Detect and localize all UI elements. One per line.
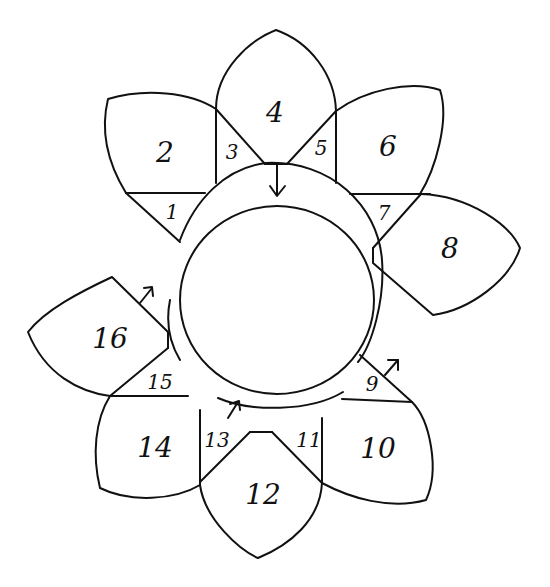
label-4: 4 xyxy=(265,96,284,129)
piece-3-edge xyxy=(216,109,265,164)
label-15: 15 xyxy=(147,370,172,394)
arrow-up-right-icon-13 xyxy=(228,401,240,418)
inner-circle xyxy=(180,206,374,394)
piece-5-edge xyxy=(287,111,336,164)
arrow-up-right-icon-9 xyxy=(385,360,398,375)
label-6: 6 xyxy=(379,130,397,163)
flower-pattern-diagram: 1 2 3 4 5 6 7 8 9 10 11 12 13 14 15 16 xyxy=(0,0,550,587)
label-2: 2 xyxy=(155,136,174,169)
label-16: 16 xyxy=(92,322,128,355)
label-1: 1 xyxy=(166,200,179,224)
piece-labels: 1 2 3 4 5 6 7 8 9 10 11 12 13 14 15 16 xyxy=(92,96,459,511)
label-9: 9 xyxy=(366,372,379,396)
arrow-up-right-icon-16 xyxy=(140,287,153,303)
label-13: 13 xyxy=(204,428,229,452)
label-14: 14 xyxy=(137,431,173,464)
label-11: 11 xyxy=(296,428,321,452)
label-12: 12 xyxy=(245,478,281,511)
label-3: 3 xyxy=(226,140,239,164)
label-5: 5 xyxy=(315,136,328,160)
label-7: 7 xyxy=(378,201,391,225)
label-8: 8 xyxy=(441,232,459,265)
outer-ring-arc xyxy=(168,163,382,408)
center-ring xyxy=(168,163,382,408)
arrow-down-icon xyxy=(270,164,285,196)
label-10: 10 xyxy=(360,432,396,465)
